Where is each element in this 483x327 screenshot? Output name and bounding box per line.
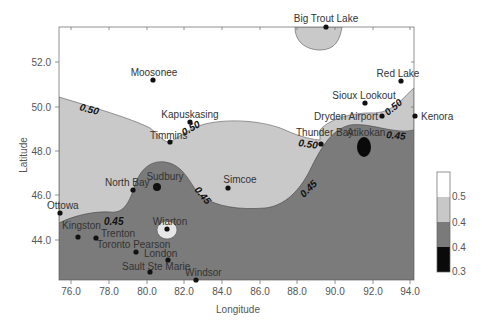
station-label: Red Lake xyxy=(377,68,420,79)
station-label: North Bay xyxy=(105,177,149,188)
y-tick-label: 48.0 xyxy=(32,146,52,157)
x-tick-label: 76.0 xyxy=(61,286,81,297)
station-label: Trenton xyxy=(101,228,135,239)
region-atikokan xyxy=(357,137,371,157)
station-marker xyxy=(133,249,138,254)
station-marker xyxy=(164,226,169,231)
colorbar-label: 0.4 xyxy=(452,217,466,228)
station-label: Moosonee xyxy=(131,67,178,78)
station-label: Ottowa xyxy=(47,200,79,211)
station-label: Atikokan xyxy=(347,127,385,138)
colorbar-label: 0.5 xyxy=(452,191,466,202)
station-marker xyxy=(75,234,80,239)
station-marker xyxy=(362,100,367,105)
contour-label: 0.45 xyxy=(386,129,407,142)
station-label: Simcoe xyxy=(223,174,257,185)
station-label: Kingston xyxy=(62,220,101,231)
contour-label: 0.45 xyxy=(104,216,124,227)
station-label: Wiarton xyxy=(153,216,187,227)
x-tick-labels: 76.0 78.0 80.0 82.0 84.0 86.0 88.0 90.0 … xyxy=(61,286,420,297)
station-label: Sioux Lookout xyxy=(332,90,396,101)
x-tick-label: 88.0 xyxy=(287,286,307,297)
x-tick-label: 82.0 xyxy=(174,286,194,297)
station-marker xyxy=(379,113,384,118)
x-tick-label: 84.0 xyxy=(212,286,232,297)
y-tick-labels: 44.0 46.0 48.0 50.0 52.0 xyxy=(32,57,52,246)
colorbar-label: 0.4 xyxy=(452,242,466,253)
colorbar-swatch xyxy=(437,197,450,222)
colorbar-legend: 0.5 0.4 0.4 0.3 xyxy=(437,172,466,277)
colorbar-swatch xyxy=(437,247,450,272)
x-tick-label: 86.0 xyxy=(250,286,270,297)
x-tick-label: 92.0 xyxy=(363,286,383,297)
station-marker xyxy=(225,185,230,190)
station-label: Windsor xyxy=(185,267,222,278)
station-marker xyxy=(130,187,135,192)
station-label: Sault Ste Marie xyxy=(122,261,191,272)
station-marker xyxy=(318,141,323,146)
colorbar-swatch xyxy=(437,172,450,197)
station-label: Kenora xyxy=(421,111,454,122)
x-axis-title: Longitude xyxy=(216,304,260,315)
y-tick-label: 52.0 xyxy=(32,57,52,68)
x-tick-label: 78.0 xyxy=(99,286,119,297)
station-marker xyxy=(412,113,417,118)
x-tick-label: 90.0 xyxy=(325,286,345,297)
y-tick-label: 50.0 xyxy=(32,102,52,113)
x-tick-label: 80.0 xyxy=(137,286,157,297)
station-marker xyxy=(150,77,155,82)
station-label: Sudbury xyxy=(146,171,183,182)
station-label: Thunder Bay xyxy=(296,127,353,138)
station-label: Dryden Airport xyxy=(314,111,378,122)
station-label: Kapuskasing xyxy=(161,109,218,120)
station-marker xyxy=(154,184,161,191)
bottom-ticks xyxy=(71,280,410,284)
x-tick-label: 94.0 xyxy=(400,286,420,297)
contour-chart: 76.0 78.0 80.0 82.0 84.0 86.0 88.0 90.0 … xyxy=(0,0,483,327)
station-label: Timmins xyxy=(150,130,187,141)
station-marker xyxy=(187,119,192,124)
colorbar-swatch xyxy=(437,222,450,247)
y-axis-title: Latitude xyxy=(18,137,29,173)
y-tick-label: 44.0 xyxy=(32,235,52,246)
station-label: Big Trout Lake xyxy=(294,13,359,24)
station-marker xyxy=(398,78,403,83)
station-marker xyxy=(193,277,198,282)
station-label: London xyxy=(144,248,177,259)
station-marker xyxy=(57,210,62,215)
colorbar-label: 0.3 xyxy=(452,266,466,277)
station-marker xyxy=(323,24,328,29)
